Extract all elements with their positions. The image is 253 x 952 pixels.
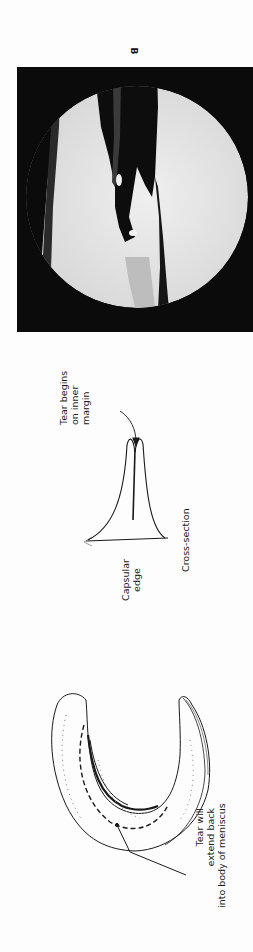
callout-line: extend back (205, 808, 216, 908)
callout-line: Tear will (194, 808, 205, 908)
callout-line: into body of meniscus (216, 808, 227, 908)
figure-page: B (0, 0, 253, 952)
callout-tear-will-extend: Tear will extend back into body of menis… (194, 808, 227, 908)
